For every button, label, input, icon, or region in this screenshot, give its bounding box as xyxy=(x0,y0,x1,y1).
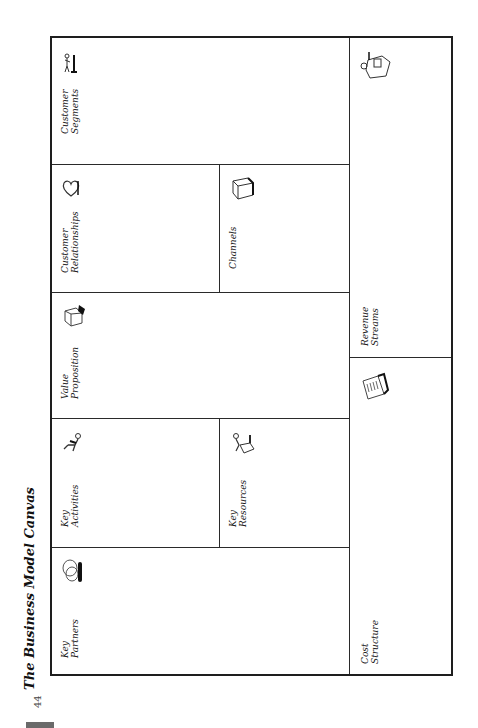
business-model-canvas: Customer Segments Customer Relationships… xyxy=(50,36,453,676)
cell-key-activities: Key Activities xyxy=(52,419,220,548)
cell-customer-segments: Customer Segments xyxy=(52,38,350,165)
label-customer-relationships: Customer Relationships xyxy=(60,211,80,273)
person-with-machine-icon xyxy=(230,431,256,457)
page-title: The Business Model Canvas xyxy=(22,487,37,690)
cash-register-icon xyxy=(360,50,392,80)
cell-key-resources: Key Resources xyxy=(220,419,350,548)
label-customer-segments: Customer Segments xyxy=(60,89,80,134)
truck-icon xyxy=(230,175,256,201)
cell-key-partners: Key Partners xyxy=(52,548,350,674)
cell-cost-structure: Cost Structure xyxy=(350,358,451,674)
label-cost-structure: Cost Structure xyxy=(360,620,380,664)
label-key-activities: Key Activities xyxy=(60,485,80,527)
label-key-resources: Key Resources xyxy=(228,480,248,527)
cell-channels: Channels xyxy=(220,165,350,293)
linked-rings-icon xyxy=(60,558,86,586)
cell-revenue-streams: Revenue Streams xyxy=(350,38,451,358)
price-tag-list-icon xyxy=(360,372,390,402)
person-at-stand-icon xyxy=(60,52,82,74)
label-key-partners: Key Partners xyxy=(60,619,80,658)
label-channels: Channels xyxy=(228,227,238,269)
page-number: 44 xyxy=(32,695,43,708)
cell-value-proposition: Value Proposition xyxy=(52,293,350,419)
worker-icon xyxy=(60,431,84,455)
cell-customer-relationships: Customer Relationships xyxy=(52,165,220,293)
label-revenue-streams: Revenue Streams xyxy=(360,307,380,346)
label-value-proposition: Value Proposition xyxy=(60,347,80,399)
page-tab-marker xyxy=(26,722,54,728)
heart-icon xyxy=(60,177,82,199)
gift-box-icon xyxy=(62,303,88,329)
